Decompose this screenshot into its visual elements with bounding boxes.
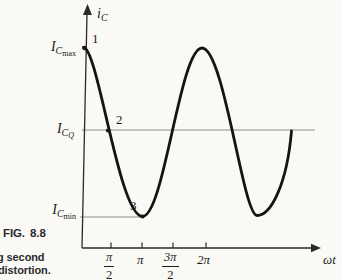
xtick-label-2pi: 2π bbox=[197, 253, 210, 266]
y-axis-arrowhead bbox=[83, 4, 92, 15]
point-1-dot bbox=[82, 46, 86, 50]
icmin-subsub: min bbox=[64, 212, 76, 221]
icmin-sub: C bbox=[57, 208, 64, 219]
y-axis-title-sub: C bbox=[101, 12, 108, 23]
xtick-label-pi-over-2: π 2 bbox=[104, 251, 114, 280]
3pi-over-2-numerator: 3π bbox=[162, 251, 179, 266]
icq-label: ICQ bbox=[57, 120, 74, 140]
caption-line-1: g second bbox=[0, 252, 45, 263]
point-1-label: 1 bbox=[92, 32, 99, 45]
icmax-subsub: max bbox=[62, 49, 76, 58]
collector-current-waveform bbox=[84, 48, 292, 217]
icmax-label: ICmax bbox=[51, 38, 76, 58]
xtick-label-pi: π bbox=[137, 253, 144, 266]
point-2-label: 2 bbox=[116, 113, 123, 126]
figure-8-8: iC ICmax ICQ ICmin 1 2 3 π 2 π 3π 2 2π ω… bbox=[0, 0, 342, 280]
x-axis-title: ωt bbox=[323, 253, 336, 266]
x-axis-arrowhead bbox=[311, 244, 321, 252]
icq-subsub: Q bbox=[68, 131, 74, 140]
caption-line-2: distortion. bbox=[0, 265, 51, 276]
point-2-dot bbox=[106, 128, 110, 132]
point-3-label: 3 bbox=[130, 199, 137, 212]
point-3-dot bbox=[140, 214, 144, 218]
icmin-label: ICmin bbox=[52, 201, 76, 221]
3pi-over-2-denominator: 2 bbox=[162, 266, 179, 280]
pi-over-2-denominator: 2 bbox=[104, 266, 114, 280]
figure-number: FIG. 8.8 bbox=[3, 228, 46, 240]
y-axis-title: iC bbox=[97, 5, 108, 23]
xtick-label-3pi-over-2: 3π 2 bbox=[162, 251, 179, 280]
pi-over-2-numerator: π bbox=[104, 251, 114, 266]
